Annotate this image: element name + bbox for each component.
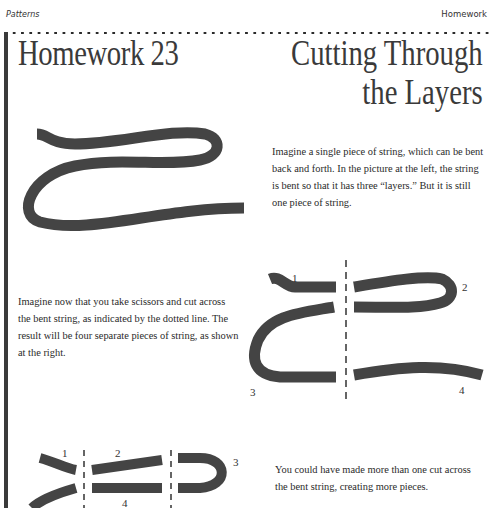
piece-label-3: 3 (250, 386, 256, 398)
section-title-line-2: the Layers (291, 73, 483, 112)
running-header-left: Patterns (6, 10, 39, 19)
single-cut-figure: 1 2 3 4 (250, 255, 489, 400)
piece-label-1: 1 (62, 447, 68, 459)
piece-label-4: 4 (459, 384, 465, 396)
section-title: Cutting Through the Layers (291, 34, 483, 112)
intro-paragraph: Imagine a single piece of string, which … (272, 143, 486, 211)
piece-label-3: 3 (233, 456, 239, 468)
multiple-cuts-paragraph: You could have made more than one cut ac… (275, 461, 485, 495)
single-cut-paragraph: Imagine now that you take scissors and c… (18, 293, 240, 361)
piece-label-1: 1 (292, 272, 298, 284)
piece-label-4: 4 (122, 497, 128, 508)
piece-label-2: 2 (462, 281, 468, 293)
double-cut-figure: 1 2 3 4 (0, 400, 250, 508)
running-header-right: Homework (441, 9, 487, 19)
bent-string-figure (0, 120, 250, 230)
piece-label-2: 2 (115, 447, 121, 459)
section-title-line-1: Cutting Through (291, 34, 483, 73)
page-title-homework: Homework 23 (18, 34, 178, 74)
